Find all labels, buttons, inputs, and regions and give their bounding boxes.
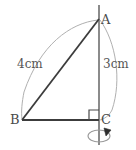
figure-canvas	[0, 0, 136, 150]
side-length-label-ac: 3cm	[103, 58, 129, 70]
geometry-figure: A B C 4cm 3cm	[0, 0, 136, 150]
side-length-label-ab: 4cm	[17, 58, 43, 70]
right-angle-marker-icon	[89, 110, 99, 120]
vertex-label-b: B	[10, 113, 20, 126]
vertex-label-c: C	[101, 113, 111, 126]
vertex-label-a: A	[101, 13, 110, 26]
